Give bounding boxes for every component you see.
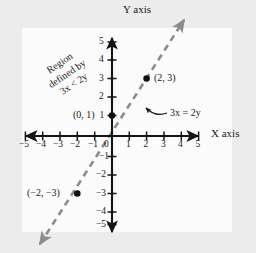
point-label-neg2-neg3: (−2, −3)	[27, 188, 60, 198]
point-label-2-3: (2, 3)	[154, 73, 176, 83]
y-tick-label: 2	[99, 92, 104, 102]
x-tick-label: 3	[161, 140, 166, 150]
point-marker-2-3	[143, 75, 150, 82]
x-tick-label: −1	[88, 140, 98, 150]
equation-label: 3x = 2y	[170, 108, 201, 118]
y-axis-title: Y axis	[123, 4, 151, 15]
x-axis-title: X axis	[211, 128, 239, 139]
x-tick-label: −5	[19, 140, 29, 150]
point-label-0-1: (0, 1)	[73, 110, 95, 120]
x-tick-label: 4	[178, 140, 183, 150]
equation-leader-line	[146, 108, 167, 114]
y-tick-label: 3	[99, 74, 104, 84]
x-tick-label: −2	[70, 140, 80, 150]
y-tick-label: 5	[99, 37, 104, 47]
y-tick-label: −1	[99, 152, 109, 162]
x-tick-label: 1	[126, 140, 131, 150]
y-tick-label: −3	[96, 189, 106, 199]
y-tick-label: −4	[96, 207, 106, 217]
y-tick-label: −2	[96, 170, 106, 180]
x-tick-label: −4	[36, 140, 46, 150]
point-marker-neg2-neg3	[74, 190, 81, 197]
point-marker-0-1	[109, 112, 116, 119]
x-tick-label: 5	[196, 140, 201, 150]
x-tick-label: −3	[53, 140, 63, 150]
y-tick-label: −5	[96, 220, 106, 230]
x-tick-label: 2	[144, 140, 149, 150]
y-tick-label: 1	[100, 111, 105, 121]
origin-label: 0	[104, 140, 109, 150]
coordinate-plane-figure: Y axis X axis 0 −5 −4 −3 −2 −1 1 2 3 4 5…	[0, 0, 256, 253]
